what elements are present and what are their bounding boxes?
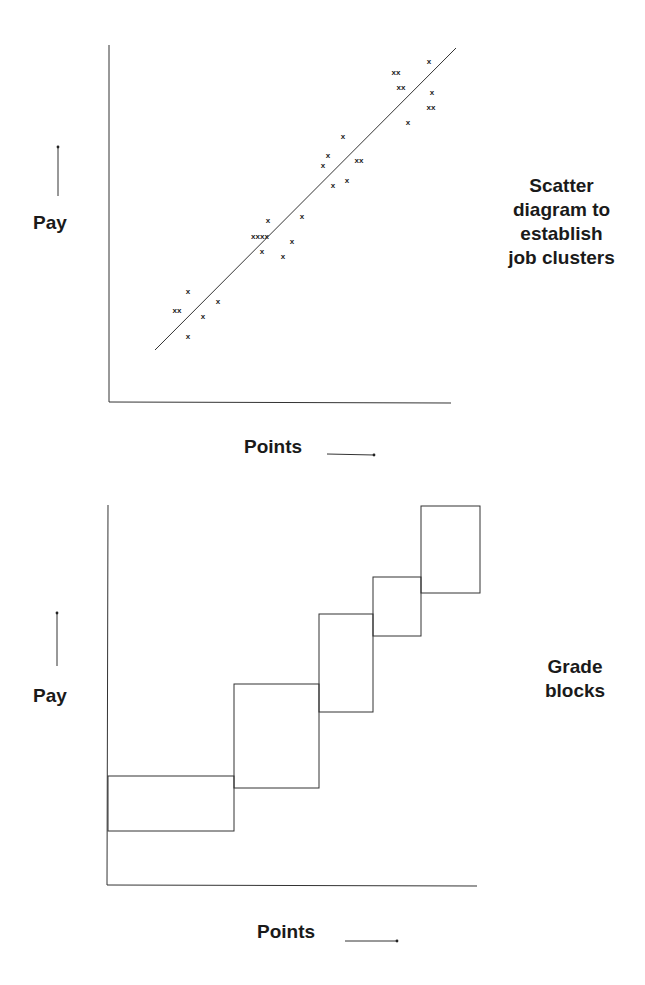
- x-axis-label: Points: [244, 436, 302, 458]
- figure-caption: Scatter diagram to establish job cluster…: [484, 174, 639, 270]
- scatter-figure: xxxxxxxxxxxxxxxxxxxxxxxxxxxxxxx Pay Poin…: [0, 0, 645, 480]
- scatter-marker: x: [290, 237, 295, 246]
- grade-block: [373, 577, 421, 636]
- scatter-marker: xxxx: [251, 232, 269, 241]
- scatter-marker: xx: [427, 103, 436, 112]
- caption-line: Grade: [520, 655, 630, 679]
- scatter-markers: xxxxxxxxxxxxxxxxxxxxxxxxxxxxxxx: [173, 57, 436, 341]
- scatter-marker: x: [281, 252, 286, 261]
- pay-arrow-head-icon: [56, 612, 59, 615]
- caption-line: blocks: [520, 679, 630, 703]
- scatter-marker: xx: [392, 68, 401, 77]
- grade-blocks-figure: Pay Points Grade blocks: [0, 480, 645, 985]
- trend-line: [155, 48, 456, 350]
- grade-block: [108, 776, 234, 831]
- points-arrow-head-icon: [396, 940, 399, 943]
- scatter-marker: x: [427, 57, 432, 66]
- scatter-marker: x: [430, 88, 435, 97]
- pay-arrow-head-icon: [57, 146, 60, 149]
- scatter-marker: xx: [173, 306, 182, 315]
- scatter-marker: x: [345, 176, 350, 185]
- caption-line: diagram to: [484, 198, 639, 222]
- scatter-marker: x: [186, 287, 191, 296]
- scatter-marker: x: [321, 161, 326, 170]
- scatter-marker: xx: [397, 83, 406, 92]
- scatter-marker: x: [186, 332, 191, 341]
- scatter-marker: x: [201, 312, 206, 321]
- x-axis-label: Points: [257, 921, 315, 943]
- caption-line: establish: [484, 222, 639, 246]
- scatter-marker: x: [216, 297, 221, 306]
- grade-blocks: [108, 506, 480, 831]
- scatter-marker: x: [300, 212, 305, 221]
- scatter-marker: x: [326, 151, 331, 160]
- scatter-marker: xx: [355, 156, 364, 165]
- x-axis: [107, 885, 477, 886]
- y-axis-label: Pay: [33, 212, 67, 234]
- caption-line: Scatter: [484, 174, 639, 198]
- scatter-marker: x: [341, 132, 346, 141]
- figure-caption: Grade blocks: [520, 655, 630, 703]
- scatter-marker: x: [266, 216, 271, 225]
- y-axis-label: Pay: [33, 685, 67, 707]
- scatter-marker: x: [260, 247, 265, 256]
- scatter-marker: x: [406, 118, 411, 127]
- caption-line: job clusters: [484, 246, 639, 270]
- points-arrow-icon: [327, 454, 374, 455]
- scatter-marker: x: [331, 181, 336, 190]
- points-arrow-head-icon: [373, 454, 376, 457]
- grade-blocks-plot: [0, 480, 645, 985]
- x-axis: [109, 402, 451, 403]
- grade-block: [421, 506, 480, 593]
- grade-block: [319, 614, 373, 712]
- grade-block: [234, 684, 319, 788]
